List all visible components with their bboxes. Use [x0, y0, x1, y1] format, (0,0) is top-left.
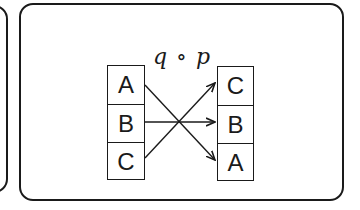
arrow-c-to-c [145, 83, 215, 158]
mapping-arrows [0, 0, 360, 210]
